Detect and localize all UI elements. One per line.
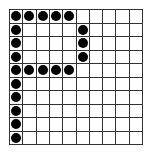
grid-cell [50, 10, 63, 24]
grid-cell [37, 91, 50, 105]
grid-cell [116, 91, 129, 105]
grid-cell [130, 24, 143, 38]
grid-cell [77, 10, 90, 24]
filled-dot-icon [11, 79, 21, 89]
grid-cell [130, 78, 143, 92]
grid-cell [50, 91, 63, 105]
filled-dot-icon [11, 65, 21, 75]
grid-cell [130, 64, 143, 78]
grid-cell [130, 105, 143, 119]
grid-cell [103, 37, 116, 51]
grid-cell [90, 24, 103, 38]
grid-cell [63, 118, 76, 132]
grid-cell [23, 51, 36, 65]
grid-cell [10, 10, 23, 24]
grid-cell [90, 91, 103, 105]
grid-cell [116, 118, 129, 132]
filled-dot-icon [38, 11, 48, 21]
grid-cell [130, 37, 143, 51]
grid-cell [50, 37, 63, 51]
grid-cell [77, 24, 90, 38]
grid-cell [103, 10, 116, 24]
grid-cell [130, 132, 143, 146]
dot-grid-letter-p [9, 9, 143, 145]
grid-cell [130, 118, 143, 132]
grid-cell [10, 118, 23, 132]
grid-cell [37, 105, 50, 119]
filled-dot-icon [11, 11, 21, 21]
filled-dot-icon [11, 52, 21, 62]
grid-cell [23, 37, 36, 51]
grid-cell [103, 105, 116, 119]
grid-cell [63, 105, 76, 119]
grid-cell [63, 37, 76, 51]
grid-cell [103, 51, 116, 65]
grid-cell [63, 64, 76, 78]
grid-cell [63, 132, 76, 146]
grid-cell [77, 64, 90, 78]
grid-cell [23, 132, 36, 146]
filled-dot-icon [11, 38, 21, 48]
grid-cell [77, 105, 90, 119]
grid-cell [10, 78, 23, 92]
filled-dot-icon [38, 65, 48, 75]
grid-cell [90, 105, 103, 119]
grid-cell [10, 91, 23, 105]
grid-cell [23, 64, 36, 78]
grid-cell [103, 78, 116, 92]
grid-cell [116, 64, 129, 78]
grid-cell [23, 91, 36, 105]
grid-cell [10, 51, 23, 65]
filled-dot-icon [64, 11, 74, 21]
grid-cell [77, 132, 90, 146]
grid-cell [23, 118, 36, 132]
filled-dot-icon [11, 119, 21, 129]
grid-cell [23, 10, 36, 24]
grid-cell [116, 51, 129, 65]
grid-cell [50, 51, 63, 65]
grid-cell [10, 24, 23, 38]
grid-cell [116, 10, 129, 24]
grid-cell [63, 91, 76, 105]
grid-cell [116, 37, 129, 51]
grid-cell [63, 51, 76, 65]
grid-cell [103, 64, 116, 78]
grid-cell [10, 105, 23, 119]
filled-dot-icon [24, 11, 34, 21]
grid-cell [63, 10, 76, 24]
filled-dot-icon [11, 106, 21, 116]
grid-cell [103, 132, 116, 146]
grid-cell [130, 51, 143, 65]
filled-dot-icon [11, 92, 21, 102]
grid-cell [37, 24, 50, 38]
grid-cell [90, 118, 103, 132]
grid-cell [23, 78, 36, 92]
grid-cell [103, 118, 116, 132]
grid-cell [103, 91, 116, 105]
grid-cell [23, 105, 36, 119]
filled-dot-icon [64, 65, 74, 75]
grid-cell [37, 78, 50, 92]
grid-cell [10, 64, 23, 78]
grid-cell [50, 24, 63, 38]
filled-dot-icon [78, 25, 88, 35]
grid-cell [90, 10, 103, 24]
grid-cell [37, 10, 50, 24]
grid-cell [77, 91, 90, 105]
grid-cell [10, 132, 23, 146]
grid-cell [90, 78, 103, 92]
grid-cell [37, 37, 50, 51]
grid-cell [90, 51, 103, 65]
grid-cell [90, 64, 103, 78]
grid-cell [130, 91, 143, 105]
grid-cell [37, 64, 50, 78]
filled-dot-icon [11, 25, 21, 35]
grid-cell [103, 24, 116, 38]
grid-cell [116, 105, 129, 119]
filled-dot-icon [51, 11, 61, 21]
grid-cell [37, 51, 50, 65]
grid-cell [37, 118, 50, 132]
grid-cell [90, 37, 103, 51]
grid-cell [50, 105, 63, 119]
filled-dot-icon [11, 133, 21, 143]
